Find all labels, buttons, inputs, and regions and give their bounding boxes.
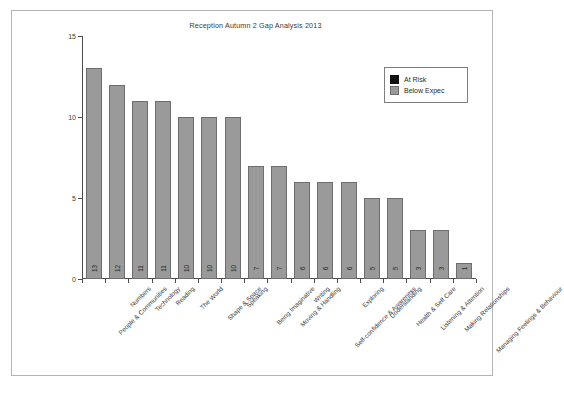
bar-slot: 5 <box>361 36 383 279</box>
bar-slot: 10 <box>198 36 220 279</box>
x-axis-tick-mark <box>360 279 361 283</box>
bar[interactable]: 13 <box>86 68 102 279</box>
bar-value-label: 10 <box>206 265 213 272</box>
bar-value-label: 1 <box>461 267 468 271</box>
x-axis-tick-mark <box>430 279 431 283</box>
chart-legend: At RiskBelow Expec <box>384 67 468 103</box>
x-axis-tick-mark <box>105 279 106 283</box>
bar[interactable]: 10 <box>178 117 194 279</box>
bar[interactable]: 6 <box>294 182 310 279</box>
bar-value-label: 3 <box>438 267 445 271</box>
y-axis-tick-label: 15 <box>68 33 76 40</box>
bar-value-label: 10 <box>183 265 190 272</box>
bar[interactable]: 10 <box>201 117 217 279</box>
bar-slot: 11 <box>152 36 174 279</box>
bar[interactable]: 5 <box>364 198 380 279</box>
x-axis-tick-mark <box>406 279 407 283</box>
bar-value-label: 5 <box>391 267 398 271</box>
bar-slot: 7 <box>245 36 267 279</box>
bar-slot: 7 <box>268 36 290 279</box>
x-axis-tick-mark <box>175 279 176 283</box>
x-axis-tick-mark <box>152 279 153 283</box>
bar[interactable]: 11 <box>155 101 171 279</box>
bar-value-label: 10 <box>229 265 236 272</box>
bar[interactable]: 12 <box>109 85 125 279</box>
bar-value-label: 11 <box>136 265 143 272</box>
bar-slot: 13 <box>83 36 105 279</box>
x-axis-tick-mark <box>82 279 83 283</box>
y-axis-tick-label: 5 <box>72 195 76 202</box>
bar[interactable]: 3 <box>410 230 426 279</box>
x-axis-tick-mark <box>314 279 315 283</box>
bar-value-label: 5 <box>368 267 375 271</box>
chart-title: Reception Autumn 2 Gap Analysis 2013 <box>0 21 511 30</box>
bar-value-label: 6 <box>322 267 329 271</box>
bar-value-label: 11 <box>160 265 167 272</box>
x-axis-tick-mark <box>198 279 199 283</box>
x-axis-tick-mark <box>128 279 129 283</box>
legend-swatch <box>390 75 399 84</box>
bar-value-label: 6 <box>299 267 306 271</box>
x-axis-tick-mark <box>476 279 477 283</box>
legend-item[interactable]: At Risk <box>390 75 462 84</box>
bar[interactable]: 7 <box>271 166 287 279</box>
x-axis-tick-mark <box>221 279 222 283</box>
y-axis-tick-label: 0 <box>72 276 76 283</box>
bar-slot: 10 <box>222 36 244 279</box>
bar[interactable]: 3 <box>433 230 449 279</box>
bar-slot: 10 <box>175 36 197 279</box>
bar-value-label: 7 <box>252 267 259 271</box>
bar[interactable]: 11 <box>132 101 148 279</box>
bar-value-label: 7 <box>276 267 283 271</box>
bar-slot: 6 <box>291 36 313 279</box>
x-axis-tick-mark <box>383 279 384 283</box>
bar[interactable]: 1 <box>456 263 472 279</box>
y-axis-label: Number of children (Total in year group … <box>0 36 2 279</box>
bar[interactable]: 5 <box>387 198 403 279</box>
bar-value-label: 6 <box>345 267 352 271</box>
x-axis-tick-mark <box>291 279 292 283</box>
x-axis-tick-mark <box>267 279 268 283</box>
bar-slot: 6 <box>314 36 336 279</box>
x-axis-tick-mark <box>337 279 338 283</box>
bar[interactable]: 7 <box>248 166 264 279</box>
legend-swatch <box>390 86 399 95</box>
bar-value-label: 13 <box>90 265 97 272</box>
bar-value-label: 12 <box>113 265 120 272</box>
x-axis-tick-mark <box>453 279 454 283</box>
y-axis-tick-label: 10 <box>68 114 76 121</box>
bar[interactable]: 10 <box>225 117 241 279</box>
legend-label: At Risk <box>404 76 426 83</box>
bar-slot: 11 <box>129 36 151 279</box>
bar-slot: 6 <box>338 36 360 279</box>
x-axis-tick-mark <box>244 279 245 283</box>
bar-slot: 12 <box>106 36 128 279</box>
bar[interactable]: 6 <box>317 182 333 279</box>
legend-item[interactable]: Below Expec <box>390 86 462 95</box>
legend-label: Below Expec <box>404 87 444 94</box>
bar-value-label: 3 <box>415 267 422 271</box>
bar[interactable]: 6 <box>341 182 357 279</box>
